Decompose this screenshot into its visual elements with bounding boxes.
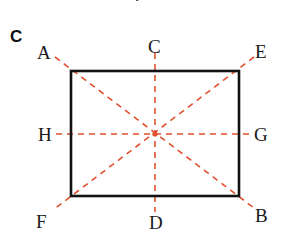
- label-g: G: [254, 125, 268, 144]
- geometry-figure: T C A C E H G F D B: [0, 0, 282, 237]
- diagonal-a-to-b: [55, 57, 254, 208]
- cropped-title-glyph: T: [131, 0, 147, 1]
- label-c: C: [148, 37, 161, 56]
- rectangle-shape: [71, 71, 239, 196]
- label-f: F: [36, 212, 47, 231]
- diagram-canvas: [0, 0, 282, 237]
- label-a: A: [37, 43, 51, 62]
- label-h: H: [38, 125, 52, 144]
- label-b: B: [255, 206, 268, 225]
- center-point-dot: [152, 131, 157, 136]
- label-d: D: [149, 213, 163, 232]
- dashed-line-group: [53, 53, 254, 212]
- diagonal-e-to-f: [53, 57, 254, 210]
- corner-annotation-c: C: [10, 28, 22, 45]
- label-e: E: [255, 42, 267, 61]
